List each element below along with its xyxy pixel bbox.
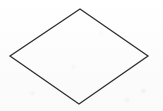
diamond-outline xyxy=(10,9,148,104)
figure-canvas xyxy=(0,0,163,111)
diamond-shape-svg xyxy=(0,0,163,111)
